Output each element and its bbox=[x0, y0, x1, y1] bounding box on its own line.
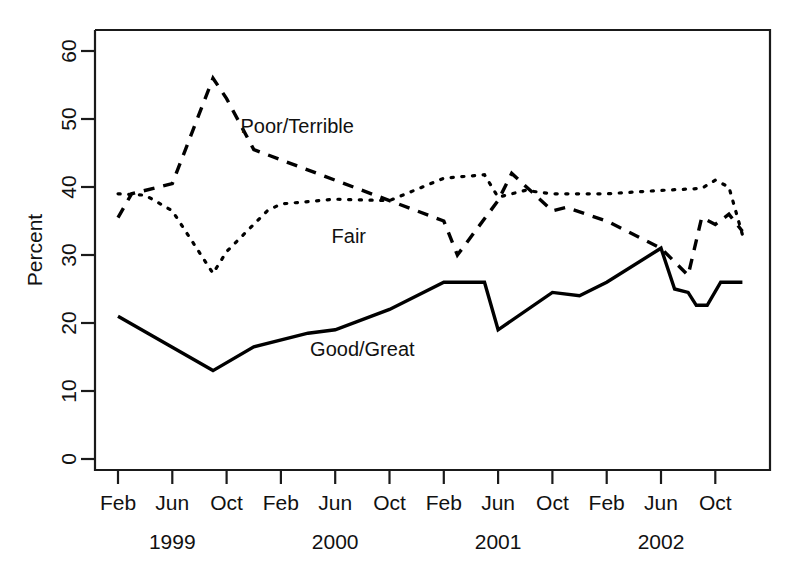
x-tick-label-6: Feb bbox=[426, 491, 462, 514]
x-tick-label-10: Jun bbox=[644, 491, 678, 514]
x-axis-year-label-1999: 1999 bbox=[149, 530, 196, 553]
series-line-fair bbox=[118, 175, 742, 274]
x-axis: FebJunOctFebJunOctFebJunOctFebJunOct bbox=[100, 470, 732, 514]
x-axis-year-labels: 1999200020012002 bbox=[149, 530, 684, 553]
series-label-good-great: Good/Great bbox=[310, 338, 415, 360]
x-axis-year-label-2000: 2000 bbox=[312, 530, 359, 553]
y-tick-label-50: 50 bbox=[57, 107, 80, 130]
y-tick-label-30: 30 bbox=[57, 243, 80, 266]
x-tick-label-5: Oct bbox=[373, 491, 406, 514]
chart-figure: 0102030405060 FebJunOctFebJunOctFebJunOc… bbox=[0, 0, 803, 581]
x-tick-label-2: Oct bbox=[210, 491, 243, 514]
y-tick-label-20: 20 bbox=[57, 311, 80, 334]
series-label-poor-terrible: Poor/Terrible bbox=[240, 115, 353, 137]
x-axis-year-label-2001: 2001 bbox=[475, 530, 522, 553]
y-tick-label-0: 0 bbox=[57, 453, 80, 465]
plot-frame bbox=[95, 30, 770, 470]
x-axis-year-label-2002: 2002 bbox=[638, 530, 685, 553]
series-line-good-great bbox=[118, 248, 742, 370]
series-line-poor-terrible bbox=[118, 78, 742, 275]
x-tick-label-8: Oct bbox=[536, 491, 569, 514]
x-tick-label-4: Jun bbox=[318, 491, 352, 514]
y-axis: 0102030405060 bbox=[57, 39, 96, 465]
y-tick-label-40: 40 bbox=[57, 175, 80, 198]
x-tick-label-1: Jun bbox=[155, 491, 189, 514]
y-tick-label-60: 60 bbox=[57, 39, 80, 62]
data-series-group bbox=[118, 78, 742, 370]
line-chart-canvas: 0102030405060 FebJunOctFebJunOctFebJunOc… bbox=[0, 0, 803, 581]
y-tick-label-10: 10 bbox=[57, 379, 80, 402]
series-annotations: Poor/TerribleFairGood/Great bbox=[240, 115, 415, 360]
x-tick-label-11: Oct bbox=[699, 491, 732, 514]
series-label-fair: Fair bbox=[332, 225, 367, 247]
x-tick-label-9: Feb bbox=[589, 491, 625, 514]
x-tick-label-3: Feb bbox=[263, 491, 299, 514]
y-axis-title: Percent bbox=[23, 214, 46, 287]
x-tick-label-0: Feb bbox=[100, 491, 136, 514]
x-tick-label-7: Jun bbox=[481, 491, 515, 514]
